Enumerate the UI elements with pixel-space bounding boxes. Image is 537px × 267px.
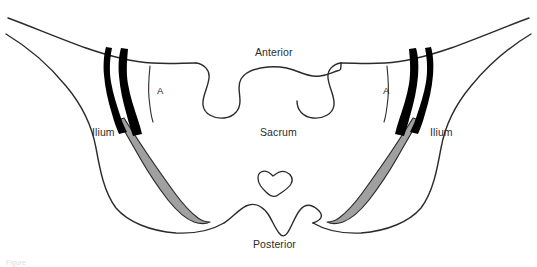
pelvis-outline-left-posterior [6, 34, 224, 233]
synovial-joint-left [118, 118, 210, 224]
label-anterior: Anterior [255, 47, 293, 58]
sacrum-posterior-contour [224, 204, 321, 235]
label-marker-a-right: A [383, 86, 389, 96]
label-ilium-right: Ilium [430, 127, 453, 138]
pelvis-outline-right-anterior [341, 18, 529, 63]
label-ilium-left: Ilium [92, 127, 115, 138]
label-marker-a-left: A [157, 86, 163, 96]
label-sacrum: Sacrum [260, 127, 297, 138]
sacrum-anterior-contour [196, 63, 341, 118]
figure-caption: Figure [6, 259, 306, 267]
pelvis-outline-left-anterior [8, 18, 196, 63]
sacral-foramen [258, 171, 292, 196]
figure-container: Anterior Posterior Sacrum Ilium Ilium A … [0, 0, 537, 267]
synovial-joint-right [327, 118, 419, 224]
pelvis-outline-right-posterior [313, 34, 531, 233]
label-posterior: Posterior [253, 239, 296, 250]
bracket-left [149, 66, 153, 122]
